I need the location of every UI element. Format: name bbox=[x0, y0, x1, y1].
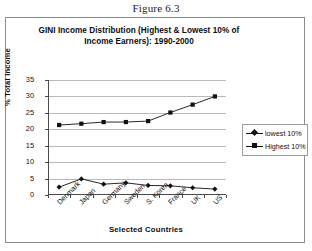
y-tick-label: 20 bbox=[14, 125, 34, 132]
data-point-marker bbox=[190, 185, 195, 190]
chart-panel: GINI Income Distribution (Highest & Lowe… bbox=[5, 17, 305, 243]
data-point-marker bbox=[213, 94, 217, 98]
data-point-marker bbox=[102, 120, 106, 124]
y-tick-label: 10 bbox=[14, 158, 34, 165]
data-point-marker bbox=[79, 122, 83, 126]
x-tick-mark bbox=[226, 195, 227, 198]
figure-container: Figure 6.3 GINI Income Distribution (Hig… bbox=[0, 0, 312, 251]
y-tick-label: 25 bbox=[14, 109, 34, 116]
data-point-marker bbox=[168, 110, 172, 114]
legend-item-lowest: lowest 10% bbox=[246, 127, 302, 140]
x-axis-label: Selected Countries bbox=[66, 225, 226, 234]
chart-title-line-1: GINI Income Distribution (Highest & Lowe… bbox=[39, 26, 240, 35]
plot-area bbox=[48, 80, 226, 195]
y-tick-label: 0 bbox=[14, 191, 34, 198]
y-tick-label: 15 bbox=[14, 142, 34, 149]
legend-label-lowest: lowest 10% bbox=[265, 129, 302, 138]
series-line-1 bbox=[59, 96, 215, 125]
data-point-marker bbox=[124, 120, 128, 124]
data-point-marker bbox=[57, 123, 61, 127]
x-tick-mark bbox=[48, 195, 49, 198]
data-point-marker bbox=[57, 185, 62, 190]
legend-marker-square-icon bbox=[246, 142, 263, 151]
data-series-layer bbox=[48, 80, 226, 195]
data-point-marker bbox=[212, 186, 217, 191]
y-tick-label: 30 bbox=[14, 92, 34, 99]
data-point-marker bbox=[101, 182, 106, 187]
x-tick-mark bbox=[204, 195, 205, 198]
data-point-marker bbox=[191, 103, 195, 107]
y-axis-label: % Total Income bbox=[3, 48, 12, 106]
y-tick-label: 5 bbox=[14, 175, 34, 182]
figure-caption: Figure 6.3 bbox=[0, 0, 312, 17]
chart-legend: lowest 10% Highest 10% bbox=[242, 124, 308, 156]
data-point-marker bbox=[79, 176, 84, 181]
legend-label-highest: Highest 10% bbox=[265, 142, 306, 151]
legend-item-highest: Highest 10% bbox=[246, 140, 306, 153]
data-point-marker bbox=[146, 119, 150, 123]
chart-title: GINI Income Distribution (Highest & Lowe… bbox=[24, 25, 254, 47]
y-tick-label: 35 bbox=[14, 76, 34, 83]
chart-title-line-2: Income Earners): 1990-2000 bbox=[24, 36, 254, 47]
legend-marker-diamond-icon bbox=[246, 129, 263, 138]
